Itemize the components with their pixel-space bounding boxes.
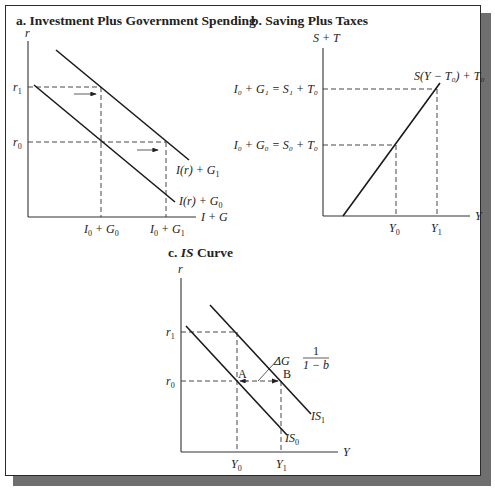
panel-b-tick-lower: I₀ + G₀ = S₀ + T₀ xyxy=(233,138,318,152)
panel-a-curve-g1-label: I(r) + G1 xyxy=(175,163,219,179)
panel-a-tick-i0-g0: I0 + G0 xyxy=(83,222,119,238)
panel-c-tick-r0: r0 xyxy=(166,374,175,390)
panel-a-tick-i0-g1: I0 + G1 xyxy=(149,222,185,238)
panel-c-is0-label: IS0 xyxy=(284,431,299,447)
panel-c-x-axis-label: Y xyxy=(343,445,351,459)
panel-b-saving-curve xyxy=(343,83,440,216)
panel-c-multiplier-denominator: 1 − b xyxy=(303,358,329,372)
panel-c-multiplier-prefix: ΔG xyxy=(273,354,290,368)
panel-c-y-axis-label: r xyxy=(178,262,183,276)
panel-b-tick-y0: Y0 xyxy=(389,221,400,237)
panel-c-tick-y0: Y0 xyxy=(231,457,242,473)
panel-b-tick-y1: Y1 xyxy=(431,221,442,237)
panel-c-point-b: B xyxy=(283,367,291,381)
panel-c-tick-y1: Y1 xyxy=(276,457,287,473)
panel-c-is1-curve xyxy=(210,305,311,414)
panel-b-curve-label: S(Y − T₀) + T₀ xyxy=(414,69,485,83)
panel-c-tick-r1: r1 xyxy=(166,325,175,341)
panel-c-multiplier-numerator: 1 xyxy=(313,344,319,358)
panel-a-tick-r1: r1 xyxy=(13,80,22,96)
panel-c-is1-label: IS1 xyxy=(310,409,325,425)
panel-b: b. Saving Plus Taxes S + T Y I₀ + G₁ = S… xyxy=(233,13,485,237)
panel-a-y-axis-label: r xyxy=(25,26,30,40)
panel-a-curve-g0 xyxy=(34,85,175,202)
panel-a: a. Investment Plus Government Spending r… xyxy=(13,13,256,238)
panel-b-tick-upper: I₀ + G₁ = S₁ + T₀ xyxy=(233,82,318,96)
islm-derivation-diagram: a. Investment Plus Government Spending r… xyxy=(0,0,495,491)
panel-c-is0-curve xyxy=(186,326,287,435)
panel-a-x-axis-label: I + G xyxy=(200,210,228,224)
panel-b-x-axis-label: Y xyxy=(475,209,483,223)
panel-a-curve-g1 xyxy=(56,50,189,160)
panel-c-title: c. IS Curve xyxy=(168,245,233,260)
panel-a-title: a. Investment Plus Government Spending xyxy=(16,13,256,28)
panel-a-curve-g0-label: I(r) + G0 xyxy=(178,194,222,210)
panel-c: c. IS Curve r Y r1 r0 A B ΔG 1 1 − b IS1… xyxy=(166,245,351,473)
panel-b-title: b. Saving Plus Taxes xyxy=(251,13,368,28)
panel-a-tick-r0: r0 xyxy=(13,135,22,151)
panel-b-y-axis-label: S + T xyxy=(313,31,341,45)
panel-c-point-a: A xyxy=(238,367,247,381)
